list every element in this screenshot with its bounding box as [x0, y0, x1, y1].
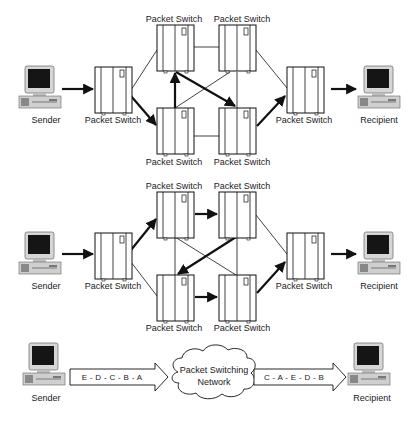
packet-switch-icon	[219, 25, 256, 73]
switch-label: Packet Switch	[146, 181, 203, 191]
packet-switch-icon	[95, 233, 132, 281]
switch-label: Packet Switch	[214, 157, 271, 167]
recipient-label: Recipient	[360, 115, 398, 125]
recipient-label: Recipient	[360, 281, 398, 291]
switch-label: Packet Switch	[146, 14, 203, 24]
switch-label: Packet Switch	[85, 281, 142, 291]
switch-label: Packet Switch	[85, 115, 142, 125]
switch-label: Packet Switch	[276, 115, 333, 125]
packet-switch-icon	[219, 192, 256, 240]
packet-switch-icon	[287, 233, 324, 281]
switch-label: Packet Switch	[146, 157, 203, 167]
network-label: Packet Switching	[180, 365, 249, 375]
switch-label: Packet Switch	[146, 323, 203, 333]
packet-switch-icon	[157, 25, 194, 73]
switch-label: Packet Switch	[214, 181, 271, 191]
sender-computer-icon	[19, 66, 61, 108]
switch-label: Packet Switch	[214, 323, 271, 333]
packet-switching-diagram: Sender Packet Switch Packet Switch Packe…	[0, 0, 416, 426]
route-diagram-1: Sender Packet Switch Packet Switch Packe…	[19, 14, 400, 167]
route-diagram-2: Sender Packet Switch Packet Switch Packe…	[19, 181, 400, 333]
network-label: Network	[197, 377, 231, 387]
sender-label: Sender	[31, 393, 60, 403]
packet-switch-icon	[287, 67, 324, 115]
switch-label: Packet Switch	[276, 281, 333, 291]
packet-switch-icon	[95, 67, 132, 115]
sender-label: Sender	[31, 115, 60, 125]
sender-computer-icon	[23, 343, 65, 385]
sender-label: Sender	[31, 281, 60, 291]
recipient-computer-icon	[358, 232, 400, 274]
recipient-computer-icon	[358, 66, 400, 108]
packet-switch-icon	[157, 108, 194, 156]
switch-label: Packet Switch	[214, 14, 271, 24]
packet-switch-icon	[157, 275, 194, 323]
recipient-label: Recipient	[353, 393, 391, 403]
summary-diagram: E - D - C - B - A Packet Switching Netwo…	[23, 343, 391, 403]
packet-switch-icon	[157, 192, 194, 240]
recipient-computer-icon	[348, 343, 390, 385]
incoming-packets-label: C - A - E - D - B	[264, 373, 324, 382]
packet-switch-icon	[219, 108, 256, 156]
sender-computer-icon	[19, 232, 61, 274]
packet-switch-icon	[219, 275, 256, 323]
outgoing-packets-label: E - D - C - B - A	[82, 373, 143, 382]
